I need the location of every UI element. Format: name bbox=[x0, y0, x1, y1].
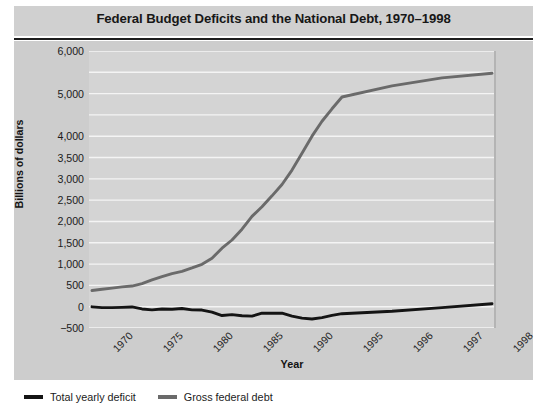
y-axis-ticks: 6,0005,0004,0003,5003,0002,5002,0001,500… bbox=[20, 51, 84, 328]
x-axis-tick-label: 1970 bbox=[111, 330, 135, 354]
legend-label: Total yearly deficit bbox=[50, 391, 136, 403]
legend-swatch-icon bbox=[24, 395, 43, 399]
x-axis-tick-label: 1985 bbox=[261, 330, 285, 354]
y-axis-tick-label: 3,500 bbox=[22, 152, 84, 164]
y-axis-tick-label: 5,000 bbox=[22, 88, 84, 100]
y-axis-title: Billions of dollars bbox=[13, 109, 25, 219]
x-axis-title: Year bbox=[89, 358, 495, 370]
data-series-group bbox=[92, 73, 492, 319]
chart-figure: Federal Budget Deficits and the National… bbox=[0, 0, 547, 415]
x-axis-tick-label: 1996 bbox=[411, 330, 435, 354]
chart-legend: Total yearly deficitGross federal debt bbox=[24, 388, 273, 406]
legend-swatch-icon bbox=[158, 395, 177, 399]
chart-title: Federal Budget Deficits and the National… bbox=[14, 11, 533, 26]
x-axis-tick-label: 1990 bbox=[311, 330, 335, 354]
legend-label: Gross federal debt bbox=[184, 391, 273, 403]
x-axis-tick-label: 1997 bbox=[461, 330, 485, 354]
y-axis-tick-label: 2,500 bbox=[22, 194, 84, 206]
plot-area bbox=[89, 51, 495, 328]
y-axis-tick-label: 2,000 bbox=[22, 215, 84, 227]
legend-item: Total yearly deficit bbox=[24, 391, 136, 403]
y-axis-tick-label: 4,000 bbox=[22, 130, 84, 142]
plot-right-border bbox=[494, 51, 496, 328]
x-axis-ticks: 197019751980198519901995199619971998 bbox=[89, 330, 495, 360]
title-divider bbox=[14, 38, 533, 40]
x-axis-tick-label: 1995 bbox=[361, 330, 385, 354]
x-axis-tick-label: 1980 bbox=[211, 330, 235, 354]
y-axis-tick-label: 3,000 bbox=[22, 173, 84, 185]
gridlines bbox=[89, 51, 495, 328]
legend-item: Gross federal debt bbox=[158, 391, 273, 403]
plot-canvas bbox=[89, 51, 495, 328]
y-axis-tick-label: 0 bbox=[22, 301, 84, 313]
series-line bbox=[92, 73, 492, 290]
y-axis-tick-label: 500 bbox=[22, 279, 84, 291]
y-axis-tick-label: 6,000 bbox=[22, 45, 84, 57]
x-axis-tick-label: 1975 bbox=[161, 330, 185, 354]
y-axis-tick-label: −500 bbox=[22, 322, 84, 334]
y-axis-tick-label: 1,500 bbox=[22, 237, 84, 249]
y-axis-tick-label: 1,000 bbox=[22, 258, 84, 270]
title-band: Federal Budget Deficits and the National… bbox=[14, 6, 533, 36]
